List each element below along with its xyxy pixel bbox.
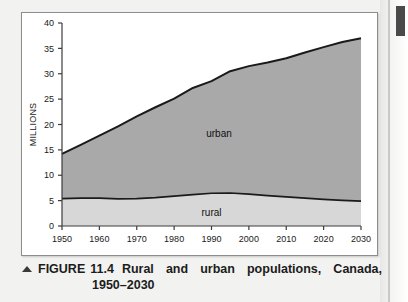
y-axis-tick-label: 30: [44, 69, 54, 79]
caption-figure-number: 11.4: [90, 262, 114, 277]
x-axis-tick-label: 1950: [52, 234, 72, 244]
caption-title-words: Ruralandurbanpopulations,Canada,: [122, 262, 382, 277]
x-axis-ticks: [62, 226, 361, 230]
y-axis-tick-label: 15: [44, 145, 54, 155]
caption-triangle-icon: [22, 266, 32, 272]
x-axis-tick-label: 1960: [89, 234, 109, 244]
urban-area-series: [62, 38, 361, 201]
y-axis-tick-label: 5: [49, 196, 54, 206]
x-axis-tick-label: 1990: [201, 234, 221, 244]
y-axis-tick-labels: 0510152025303540: [44, 18, 54, 231]
caption-figure-word: FIGURE: [38, 262, 85, 277]
y-axis-tick-label: 10: [44, 170, 54, 180]
x-axis-tick-label: 2030: [351, 234, 371, 244]
figure-caption-line-2: 1950–2030: [92, 278, 382, 293]
page-edge-tab: [396, 6, 405, 36]
x-axis-tick-labels: 195019601970198019902000201020202030: [52, 234, 371, 244]
x-axis-tick-label: 1980: [164, 234, 184, 244]
x-axis-tick-label: 2000: [239, 234, 259, 244]
series-label-urban: urban: [206, 128, 232, 139]
caption-word: urban: [200, 262, 235, 277]
y-axis-title: MILLIONS: [28, 103, 38, 147]
caption-word: Canada,: [333, 262, 382, 277]
caption-word: populations,: [247, 262, 321, 277]
series-label-rural: rural: [201, 207, 221, 218]
y-axis-tick-label: 20: [44, 120, 54, 130]
x-axis-tick-label: 2010: [276, 234, 296, 244]
y-axis-tick-label: 0: [49, 221, 54, 231]
y-axis-tick-label: 35: [44, 44, 54, 54]
figure-caption: FIGURE 11.4 Ruralandurbanpopulations,Can…: [22, 262, 382, 293]
y-axis-tick-label: 40: [44, 18, 54, 28]
caption-word: Rural: [122, 262, 154, 277]
y-axis-tick-label: 25: [44, 94, 54, 104]
area-chart: 0510152025303540 19501960197019801990200…: [22, 13, 379, 257]
figure-chart-card: 0510152025303540 19501960197019801990200…: [21, 12, 378, 256]
x-axis-tick-label: 1970: [127, 234, 147, 244]
page-gutter-shading: [380, 0, 408, 302]
page-gutter-line: [388, 0, 390, 302]
figure-caption-line-1: FIGURE 11.4 Ruralandurbanpopulations,Can…: [22, 262, 382, 277]
x-axis-tick-label: 2020: [314, 234, 334, 244]
caption-word: and: [166, 262, 188, 277]
